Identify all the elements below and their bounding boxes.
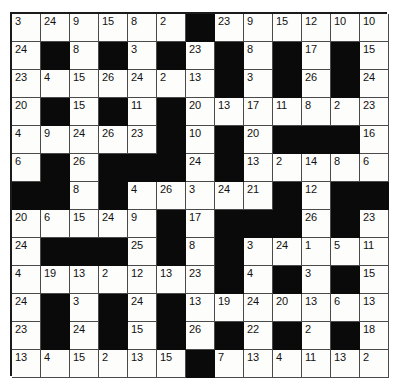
grid-letter-cell[interactable]: 6 [331, 294, 360, 322]
grid-letter-cell[interactable]: 2 [157, 70, 186, 98]
grid-letter-cell[interactable]: 26 [186, 322, 215, 350]
grid-letter-cell[interactable]: 15 [273, 14, 302, 42]
grid-letter-cell[interactable]: 2 [99, 350, 128, 378]
grid-letter-cell[interactable]: 10 [331, 14, 360, 42]
grid-letter-cell[interactable]: 4 [273, 350, 302, 378]
grid-letter-cell[interactable]: 13 [360, 294, 389, 322]
grid-letter-cell[interactable]: 23 [360, 210, 389, 238]
grid-letter-cell[interactable]: 8 [302, 98, 331, 126]
grid-letter-cell[interactable]: 17 [244, 98, 273, 126]
grid-letter-cell[interactable]: 13 [244, 350, 273, 378]
grid-letter-cell[interactable]: 2 [273, 154, 302, 182]
grid-letter-cell[interactable]: 13 [186, 70, 215, 98]
grid-letter-cell[interactable]: 3 [12, 14, 41, 42]
grid-letter-cell[interactable]: 19 [215, 294, 244, 322]
grid-letter-cell[interactable]: 24 [41, 14, 70, 42]
grid-letter-cell[interactable]: 13 [128, 350, 157, 378]
grid-letter-cell[interactable]: 2 [157, 14, 186, 42]
grid-letter-cell[interactable]: 8 [244, 42, 273, 70]
grid-letter-cell[interactable]: 20 [244, 126, 273, 154]
grid-letter-cell[interactable]: 26 [99, 126, 128, 154]
grid-letter-cell[interactable]: 24 [12, 238, 41, 266]
grid-letter-cell[interactable]: 24 [12, 42, 41, 70]
grid-letter-cell[interactable]: 4 [244, 266, 273, 294]
grid-letter-cell[interactable]: 12 [302, 14, 331, 42]
grid-letter-cell[interactable]: 3 [302, 266, 331, 294]
grid-letter-cell[interactable]: 15 [128, 322, 157, 350]
grid-letter-cell[interactable]: 24 [128, 70, 157, 98]
grid-letter-cell[interactable]: 5 [331, 238, 360, 266]
grid-letter-cell[interactable]: 20 [12, 98, 41, 126]
grid-letter-cell[interactable]: 2 [99, 266, 128, 294]
grid-letter-cell[interactable]: 22 [244, 322, 273, 350]
grid-letter-cell[interactable]: 2 [360, 350, 389, 378]
grid-letter-cell[interactable]: 15 [99, 14, 128, 42]
grid-letter-cell[interactable]: 8 [70, 182, 99, 210]
grid-letter-cell[interactable]: 4 [41, 70, 70, 98]
grid-letter-cell[interactable]: 24 [70, 322, 99, 350]
grid-letter-cell[interactable]: 24 [12, 294, 41, 322]
grid-letter-cell[interactable]: 13 [302, 294, 331, 322]
grid-letter-cell[interactable]: 4 [12, 126, 41, 154]
grid-letter-cell[interactable]: 24 [70, 126, 99, 154]
grid-letter-cell[interactable]: 6 [360, 154, 389, 182]
grid-letter-cell[interactable]: 15 [157, 350, 186, 378]
grid-letter-cell[interactable]: 13 [157, 266, 186, 294]
grid-letter-cell[interactable]: 4 [41, 350, 70, 378]
grid-letter-cell[interactable]: 8 [331, 154, 360, 182]
grid-letter-cell[interactable]: 6 [41, 210, 70, 238]
grid-letter-cell[interactable]: 12 [128, 266, 157, 294]
grid-letter-cell[interactable]: 6 [12, 154, 41, 182]
grid-letter-cell[interactable]: 8 [70, 42, 99, 70]
grid-letter-cell[interactable]: 17 [186, 210, 215, 238]
grid-letter-cell[interactable]: 8 [186, 238, 215, 266]
grid-letter-cell[interactable]: 18 [360, 322, 389, 350]
grid-letter-cell[interactable]: 20 [12, 210, 41, 238]
grid-letter-cell[interactable]: 13 [70, 266, 99, 294]
grid-letter-cell[interactable]: 2 [331, 98, 360, 126]
grid-letter-cell[interactable]: 13 [331, 350, 360, 378]
grid-letter-cell[interactable]: 24 [186, 154, 215, 182]
grid-letter-cell[interactable]: 15 [360, 266, 389, 294]
grid-letter-cell[interactable]: 11 [302, 350, 331, 378]
grid-letter-cell[interactable]: 15 [70, 210, 99, 238]
grid-letter-cell[interactable]: 26 [70, 154, 99, 182]
grid-letter-cell[interactable]: 9 [70, 14, 99, 42]
grid-letter-cell[interactable]: 1 [302, 238, 331, 266]
grid-letter-cell[interactable]: 19 [41, 266, 70, 294]
grid-letter-cell[interactable]: 20 [186, 98, 215, 126]
grid-letter-cell[interactable]: 11 [273, 98, 302, 126]
grid-letter-cell[interactable]: 3 [244, 238, 273, 266]
grid-letter-cell[interactable]: 13 [244, 154, 273, 182]
grid-letter-cell[interactable]: 4 [12, 266, 41, 294]
grid-letter-cell[interactable]: 15 [360, 42, 389, 70]
grid-letter-cell[interactable]: 11 [128, 98, 157, 126]
grid-letter-cell[interactable]: 16 [360, 126, 389, 154]
grid-letter-cell[interactable]: 10 [186, 126, 215, 154]
grid-letter-cell[interactable]: 15 [70, 98, 99, 126]
grid-letter-cell[interactable]: 13 [215, 98, 244, 126]
grid-letter-cell[interactable]: 23 [12, 322, 41, 350]
grid-letter-cell[interactable]: 21 [244, 182, 273, 210]
grid-letter-cell[interactable]: 24 [244, 294, 273, 322]
grid-letter-cell[interactable]: 11 [360, 238, 389, 266]
grid-letter-cell[interactable]: 25 [128, 238, 157, 266]
grid-letter-cell[interactable]: 9 [244, 14, 273, 42]
codeword-grid[interactable]: 3249158223915121010248323817152341526242… [10, 12, 387, 376]
grid-letter-cell[interactable]: 23 [186, 42, 215, 70]
grid-letter-cell[interactable]: 23 [360, 98, 389, 126]
grid-letter-cell[interactable]: 24 [273, 238, 302, 266]
grid-letter-cell[interactable]: 26 [302, 70, 331, 98]
grid-letter-cell[interactable]: 24 [128, 294, 157, 322]
grid-letter-cell[interactable]: 24 [99, 210, 128, 238]
grid-letter-cell[interactable]: 26 [302, 210, 331, 238]
grid-letter-cell[interactable]: 3 [128, 42, 157, 70]
grid-letter-cell[interactable]: 24 [360, 70, 389, 98]
grid-letter-cell[interactable]: 17 [302, 42, 331, 70]
grid-letter-cell[interactable]: 23 [12, 70, 41, 98]
grid-letter-cell[interactable]: 14 [302, 154, 331, 182]
grid-letter-cell[interactable]: 12 [302, 182, 331, 210]
grid-letter-cell[interactable]: 26 [157, 182, 186, 210]
grid-letter-cell[interactable]: 15 [70, 70, 99, 98]
grid-letter-cell[interactable]: 2 [302, 322, 331, 350]
